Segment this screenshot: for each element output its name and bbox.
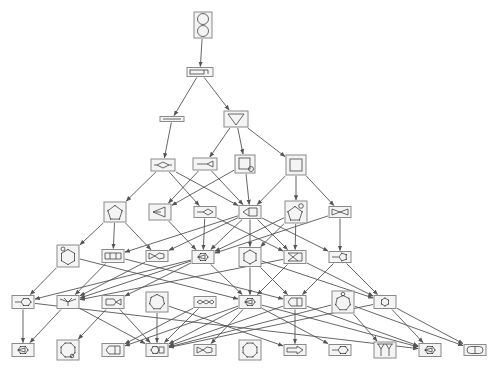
graph-node-hexagon bbox=[239, 248, 261, 267]
graph-node-bird bbox=[57, 296, 79, 309]
edge-n7-n13 bbox=[306, 176, 334, 206]
edge-n4-n10 bbox=[169, 172, 199, 206]
graph-node-diamond-tails bbox=[151, 159, 175, 171]
edge-n9-n17 bbox=[169, 221, 196, 250]
graph-node-heptagon-loop bbox=[332, 291, 354, 313]
edge-n8-n14 bbox=[80, 223, 103, 245]
node-box bbox=[102, 344, 124, 357]
edge-n20-n29 bbox=[347, 264, 378, 295]
graph-node-capsule bbox=[464, 345, 486, 356]
graph-node-pentagon bbox=[104, 202, 126, 222]
edge-n17-n22 bbox=[80, 261, 191, 298]
graph-node-hexagon bbox=[374, 296, 396, 309]
graph-node-line-hexagon bbox=[12, 296, 34, 309]
graph-node-crossed-square bbox=[284, 251, 306, 264]
graph-node-house-square bbox=[102, 344, 124, 357]
graph-node-hexagon-tri bbox=[192, 251, 214, 264]
graph-node-fish bbox=[146, 251, 168, 262]
edge-n17-n26 bbox=[211, 265, 242, 295]
graph-node-ladder bbox=[102, 250, 124, 263]
edge-n3-n6 bbox=[238, 128, 243, 154]
edge-n18-n27 bbox=[261, 268, 288, 295]
node-box bbox=[12, 344, 34, 357]
graph-node-square bbox=[286, 155, 306, 175]
edge-n11-n15 bbox=[125, 216, 238, 252]
graph-node-chain bbox=[194, 297, 216, 308]
edge-n23-n31 bbox=[78, 310, 106, 340]
graph-node-bar-with-loop bbox=[187, 68, 213, 77]
graph-node-line-diamond bbox=[194, 207, 216, 218]
graph-node-triangle-down bbox=[224, 111, 248, 127]
graph-node-hexagon-tri bbox=[239, 296, 261, 309]
graph-node-triangle-square bbox=[239, 206, 261, 219]
edge-n28-n38 bbox=[354, 314, 378, 341]
graph-node-square-loop bbox=[235, 155, 255, 173]
node-box bbox=[192, 251, 214, 264]
node-box bbox=[194, 12, 212, 38]
graph-node-fish-tail bbox=[102, 296, 124, 309]
graph-node-line bbox=[160, 117, 184, 122]
edge-n6-n11 bbox=[246, 174, 249, 205]
node-box bbox=[187, 68, 213, 77]
graph-node-line-hexagon bbox=[329, 345, 351, 356]
graph-node-line-pentagon bbox=[329, 252, 351, 263]
graph-node-two-loops bbox=[194, 12, 212, 38]
graph-hierarchy-diagram bbox=[0, 0, 496, 370]
edge-n22-n30 bbox=[30, 310, 61, 343]
node-box bbox=[286, 155, 306, 175]
edge-n26-n34 bbox=[211, 310, 243, 344]
edge-n2-n4 bbox=[164, 123, 171, 159]
edge-n6-n9 bbox=[172, 170, 234, 205]
edge-n23-n33 bbox=[120, 310, 150, 343]
node-box bbox=[419, 344, 441, 357]
edge-n0-n1 bbox=[200, 39, 202, 67]
graph-node-hexagon-tri bbox=[419, 344, 441, 357]
edge-n14-n21 bbox=[30, 268, 56, 295]
edge-n1-n3 bbox=[204, 78, 229, 111]
edge-n13-n17 bbox=[215, 216, 328, 253]
nodes-layer bbox=[12, 12, 486, 360]
graph-node-octagon bbox=[239, 340, 261, 360]
edge-n8-n15 bbox=[113, 223, 114, 249]
edge-n15-n22 bbox=[75, 264, 105, 295]
node-box bbox=[57, 245, 79, 267]
graph-node-arrow-box bbox=[284, 345, 306, 356]
graph-node-fork bbox=[193, 158, 217, 170]
graph-node-fish bbox=[194, 345, 216, 356]
graph-node-arrow-triangle bbox=[149, 204, 171, 220]
edge-n12-n19 bbox=[295, 224, 296, 250]
graph-node-heptagon bbox=[146, 292, 168, 312]
edge-n27-n39 bbox=[307, 306, 418, 345]
node-box bbox=[146, 344, 168, 357]
node-box bbox=[284, 251, 306, 264]
node-box bbox=[284, 296, 306, 309]
node-box bbox=[239, 296, 261, 309]
graph-node-hexagon-square bbox=[146, 344, 168, 357]
graph-node-hexagon-loop bbox=[57, 245, 79, 267]
edge-n4-n8 bbox=[126, 172, 156, 201]
edge-n26-n32 bbox=[125, 306, 238, 346]
graph-node-bowtie bbox=[329, 207, 351, 218]
edge-n3-n5 bbox=[210, 128, 230, 157]
graph-node-octagon-loop bbox=[57, 340, 79, 360]
edge-n7-n11 bbox=[257, 176, 285, 205]
graph-node-house-square bbox=[284, 296, 306, 309]
graph-node-y-shapes bbox=[374, 342, 396, 358]
edge-n11-n17 bbox=[211, 220, 242, 250]
edge-n28-n40 bbox=[355, 306, 463, 345]
edge-n1-n2 bbox=[174, 78, 197, 116]
edge-n3-n7 bbox=[248, 128, 285, 157]
graph-node-hexagon-tri bbox=[12, 344, 34, 357]
graph-node-pentagon-loop bbox=[285, 201, 307, 223]
